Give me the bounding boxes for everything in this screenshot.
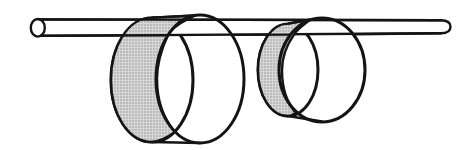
rings-on-rod-figure (0, 0, 460, 150)
rings-on-rod-svg (0, 0, 460, 150)
rod-end-cap (31, 19, 45, 37)
rod-bottom-edge-segment-1 (41, 35, 168, 36)
rod-top-edge (39, 19, 441, 20)
rod-bottom-edge-segment-3 (354, 33, 441, 34)
